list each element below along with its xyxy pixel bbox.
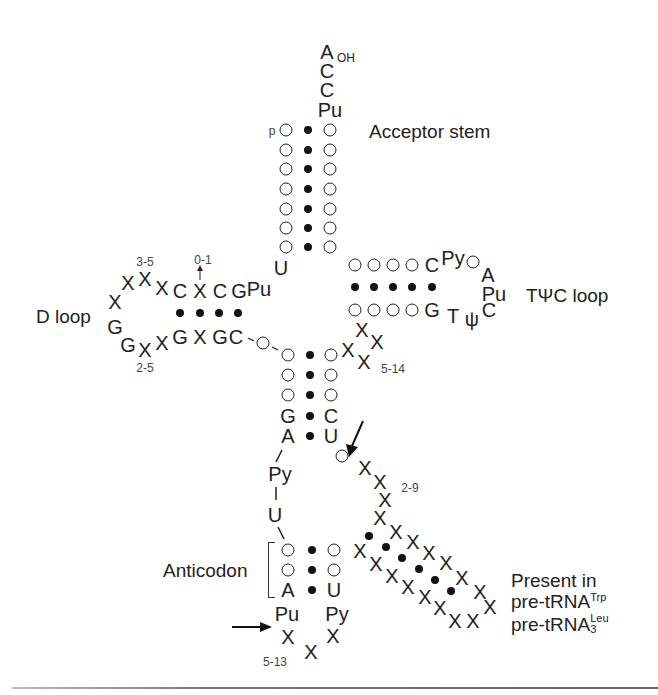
loop-range: 5-13 [263, 656, 287, 668]
loop-py2: Py [325, 604, 348, 624]
loop-u: U [268, 505, 282, 525]
loop-pu: Pu [275, 604, 299, 624]
present-in-label: Present in pre-tRNATrp pre-tRNALeu3 [511, 571, 609, 635]
tpsic-loop-label: TΨC loop [526, 286, 608, 305]
d-range-bottom: 2-5 [136, 362, 153, 374]
loop-x2: X [304, 642, 317, 662]
loop-x1: X [281, 627, 294, 647]
bottom-rule [12, 687, 658, 689]
variable-range: 5-14 [381, 363, 405, 375]
trna-cloverleaf-diagram: A OH C C Pu p Acceptor stem U D loop 3-5… [0, 0, 658, 695]
extra-arm-range: 2-9 [401, 482, 418, 494]
anticodon-bracket [268, 542, 275, 598]
anticodon-label: Anticodon [163, 561, 248, 580]
loop-py: Py [268, 464, 291, 484]
loop-x3: X [326, 626, 339, 646]
